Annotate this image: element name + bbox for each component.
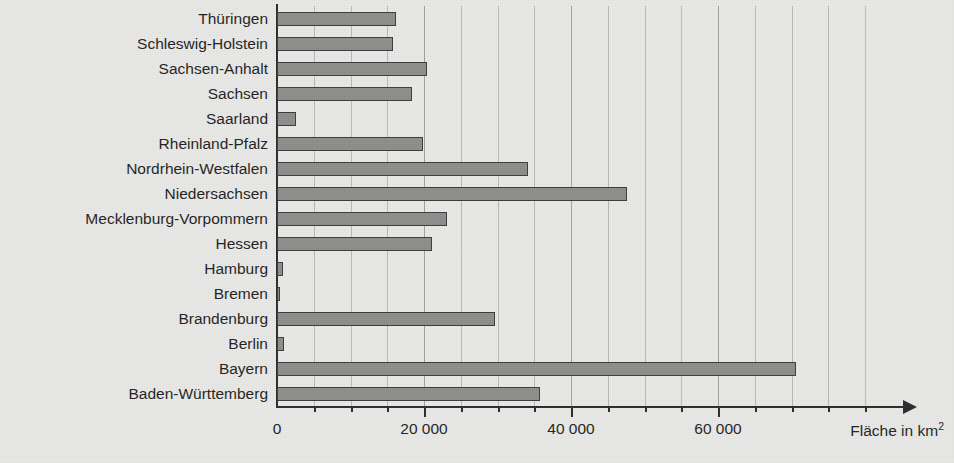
category-label: Rheinland-Pfalz [0,131,268,156]
category-label: Nordrhein-Westfalen [0,156,268,181]
bar [277,187,627,201]
x-axis-title-text: Fläche in km [850,422,938,439]
bar-row: Sachsen [0,81,954,106]
x-tick-minor [792,406,794,412]
bar [277,112,296,126]
x-tick-minor [387,406,389,412]
bar [277,212,447,226]
category-label: Sachsen [0,81,268,106]
bar-row: Thüringen [0,6,954,31]
category-label: Mecklenburg-Vorpommern [0,206,268,231]
bar-row: Berlin [0,331,954,356]
bar [277,87,412,101]
x-axis-title-exponent: 2 [938,420,944,432]
x-tick-minor [828,406,830,412]
bar-row: Brandenburg [0,306,954,331]
x-tick-minor [608,406,610,412]
bar-row: Bayern [0,356,954,381]
category-label: Bayern [0,356,268,381]
category-label: Brandenburg [0,306,268,331]
category-label: Niedersachsen [0,181,268,206]
bar-chart-area-of-german-states: ThüringenSchleswig-HolsteinSachsen-Anhal… [0,0,954,463]
x-tick-label: 20 000 [400,420,447,438]
bar [277,287,280,301]
x-tick-minor [534,406,536,412]
category-label: Thüringen [0,6,268,31]
bar-row: Baden-Württemberg [0,381,954,406]
x-tick-minor [461,406,463,412]
x-tick-minor [351,406,353,412]
bar [277,387,540,401]
bar [277,137,423,151]
bar-row: Saarland [0,106,954,131]
x-tick-label: 40 000 [547,420,594,438]
bar-row: Sachsen-Anhalt [0,56,954,81]
x-axis-title: Fläche in km2 [850,420,944,440]
category-label: Hessen [0,231,268,256]
x-tick-label: 60 000 [694,420,741,438]
bar [277,62,427,76]
bar [277,262,283,276]
category-label: Bremen [0,281,268,306]
category-label: Hamburg [0,256,268,281]
bar [277,162,528,176]
x-tick-minor [865,406,867,412]
bar [277,237,432,251]
bar [277,12,396,26]
category-label: Saarland [0,106,268,131]
x-tick-minor [498,406,500,412]
x-axis-line [277,406,907,408]
x-tick-major [424,406,426,417]
bar-row: Niedersachsen [0,181,954,206]
bar-row: Hamburg [0,256,954,281]
bar-row: Mecklenburg-Vorpommern [0,206,954,231]
bar-row: Hessen [0,231,954,256]
x-tick-minor [314,406,316,412]
bar [277,337,284,351]
x-tick-minor [755,406,757,412]
x-tick-label: 0 [273,420,282,438]
x-tick-major [571,406,573,417]
bar-row: Bremen [0,281,954,306]
category-label: Berlin [0,331,268,356]
bar-row: Schleswig-Holstein [0,31,954,56]
category-label: Schleswig-Holstein [0,31,268,56]
x-tick-minor [681,406,683,412]
bar [277,37,393,51]
bar [277,312,495,326]
x-tick-major [718,406,720,417]
category-label: Sachsen-Anhalt [0,56,268,81]
bar-row: Nordrhein-Westfalen [0,156,954,181]
bar-row: Rheinland-Pfalz [0,131,954,156]
category-label: Baden-Württemberg [0,381,268,406]
bar [277,362,796,376]
x-tick-minor [645,406,647,412]
